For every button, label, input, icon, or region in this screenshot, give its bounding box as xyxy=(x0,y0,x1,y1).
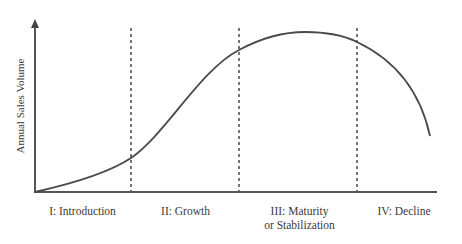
stage-label-maturity-line2: or Stabilization xyxy=(252,218,347,232)
stage-label-growth: II: Growth xyxy=(148,204,223,218)
y-axis-arrow-icon xyxy=(31,19,39,28)
sales-curve xyxy=(35,32,430,192)
stage-label-decline: IV: Decline xyxy=(364,204,444,218)
stage-label-maturity-line1: III: Maturity xyxy=(252,204,347,218)
stage-label-introduction: I: Introduction xyxy=(40,204,125,218)
stage-label-maturity: III: Maturity or Stabilization xyxy=(252,204,347,232)
y-axis-label: Annual Sales Volume xyxy=(14,51,26,161)
